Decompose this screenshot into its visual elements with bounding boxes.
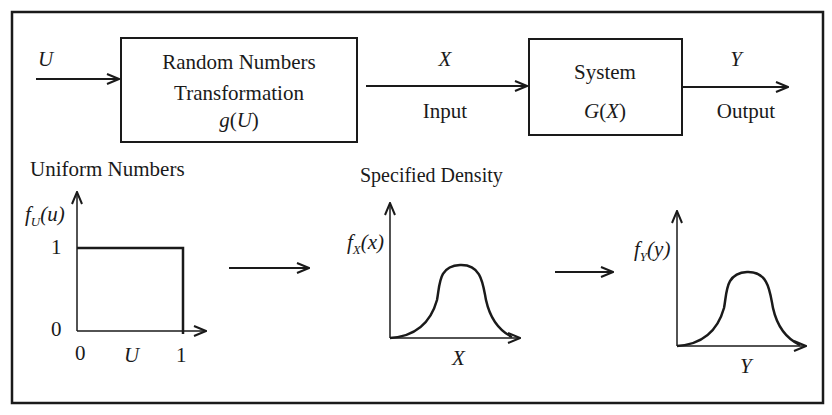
uniform-y-label: fU(u) [25,204,65,228]
uniform-plot-title: Uniform Numbers [30,159,185,180]
system-block-func: G(X) [584,101,626,122]
transform-func-name: g [219,108,230,132]
uniform-y-tick-0: 0 [51,319,62,340]
transform-block-func: g(U) [219,110,259,131]
specified-y-arg: (x) [361,230,384,254]
output-y-sub: Y [640,249,647,264]
uniform-y-sub: U [31,214,40,229]
output-caption: Output [717,101,775,122]
specified-density-curve [390,265,512,338]
system-block-title: System [574,62,636,83]
uniform-x-label: U [124,345,139,366]
input-signal-label: U [38,49,53,70]
transform-block-line1: Random Numbers [162,52,315,73]
transform-block-line2: Transformation [174,83,304,104]
intermediate-signal-label: X [439,49,452,70]
output-y-label: fY(y) [634,239,670,263]
output-y-arg: (y) [647,237,670,261]
uniform-y-tick-1: 1 [51,237,62,258]
uniform-y-arg: (u) [40,202,65,226]
specified-y-label: fX(x) [347,232,384,256]
transform-func-arg: U [237,108,252,132]
system-func-name: G [584,99,599,123]
specified-x-label: X [452,348,465,369]
uniform-x-tick-1: 1 [176,345,187,366]
uniform-density-curve [77,248,183,334]
system-func-arg: X [606,99,619,123]
output-signal-label: Y [730,49,742,70]
specified-plot-title: Specified Density [360,165,503,185]
output-x-label: Y [740,356,752,377]
uniform-x-tick-0: 0 [75,343,86,364]
output-density-curve [677,272,800,346]
specified-y-sub: X [353,242,361,257]
input-caption: Input [423,101,467,122]
